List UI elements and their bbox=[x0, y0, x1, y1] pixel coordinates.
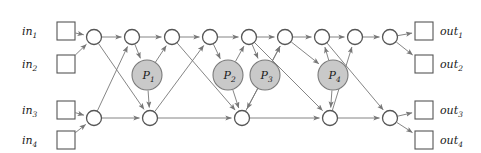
input-label-in4: in4 bbox=[22, 134, 38, 149]
input-label-in2: in2 bbox=[22, 58, 38, 73]
edge-b5-to-out3 bbox=[398, 113, 412, 116]
relay-node-b2 bbox=[143, 111, 158, 126]
edge-t2-to-P1 bbox=[135, 44, 140, 58]
relay-node-t2 bbox=[125, 30, 140, 45]
edge-t6-to-P4 bbox=[291, 42, 319, 64]
output-box-out2 bbox=[415, 55, 433, 73]
input-box-in3 bbox=[57, 101, 75, 119]
input-box-in1 bbox=[57, 22, 75, 40]
edge-in2-to-t1 bbox=[75, 44, 86, 55]
output-label-out3: out3 bbox=[440, 104, 463, 119]
relay-node-b1 bbox=[87, 111, 102, 126]
edge-P4-to-b4 bbox=[331, 90, 332, 107]
relay-node-t4 bbox=[203, 30, 218, 45]
edge-in3-to-b1 bbox=[75, 113, 83, 115]
node-layer bbox=[57, 22, 433, 149]
edge-P1-to-t3 bbox=[156, 46, 167, 62]
edge-in4-to-b1 bbox=[75, 124, 85, 132]
edge-P2-to-t5 bbox=[235, 46, 243, 61]
relay-node-t1 bbox=[87, 30, 102, 45]
edge-t9-to-out1 bbox=[398, 33, 412, 36]
input-label-in1: in1 bbox=[22, 25, 37, 40]
output-box-out4 bbox=[415, 131, 433, 149]
edge-P1-to-b2 bbox=[148, 90, 149, 107]
relay-node-t8 bbox=[348, 30, 363, 45]
dataflow-graph: P1P2P3P4in1in2in3in4out1out2out3out4 bbox=[0, 0, 481, 153]
output-box-out1 bbox=[415, 22, 433, 40]
output-box-out3 bbox=[415, 101, 433, 119]
relay-node-t6 bbox=[278, 30, 293, 45]
label-layer: P1P2P3P4in1in2in3in4out1out2out3out4 bbox=[22, 25, 463, 149]
relay-node-t3 bbox=[165, 30, 180, 45]
edge-t5-to-P3 bbox=[252, 44, 258, 58]
output-label-out2: out2 bbox=[440, 58, 463, 73]
edge-b5-to-out4 bbox=[397, 122, 413, 132]
relay-node-t9 bbox=[383, 30, 398, 45]
diagram-canvas: P1P2P3P4in1in2in3in4out1out2out3out4 bbox=[0, 0, 481, 153]
edge-P2-to-b3 bbox=[233, 90, 239, 108]
relay-node-b5 bbox=[383, 111, 398, 126]
relay-node-t7 bbox=[315, 30, 330, 45]
relay-node-t5 bbox=[242, 30, 257, 45]
input-box-in2 bbox=[57, 55, 75, 73]
edge-P4-to-t7 bbox=[325, 47, 329, 60]
output-label-out4: out4 bbox=[440, 134, 463, 149]
edge-t4-to-P2 bbox=[213, 44, 220, 59]
edge-t9-to-out2 bbox=[396, 42, 412, 55]
relay-node-b4 bbox=[323, 111, 338, 126]
input-box-in4 bbox=[57, 131, 75, 149]
edge-in1-to-t1 bbox=[75, 33, 83, 35]
output-label-out1: out1 bbox=[440, 25, 463, 40]
input-label-in3: in3 bbox=[22, 104, 38, 119]
relay-node-b3 bbox=[235, 111, 250, 126]
